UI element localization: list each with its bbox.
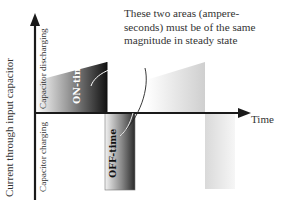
on-time-area-next-cycle: [146, 62, 205, 113]
y-negative-label: Capacitor charging: [38, 122, 48, 192]
on-time-label: ON-time: [71, 59, 82, 104]
annotation-line-1: These two areas (ampere-: [124, 7, 284, 21]
x-axis-label: Time: [251, 113, 274, 125]
y-axis-arrow-icon: [30, 13, 40, 26]
off-time-area-next-cycle: [205, 113, 235, 189]
off-time-label: OFF-time: [107, 129, 118, 178]
annotation-text: These two areas (ampere- seconds) must b…: [124, 7, 284, 48]
annotation-line-2: seconds) must be of the same: [124, 21, 284, 35]
annotation-line-3: magnitude in steady state: [124, 34, 284, 48]
y-positive-label: Capacitor discharging: [38, 28, 48, 109]
y-axis-label: Current through input capacitor: [3, 58, 15, 197]
x-axis-arrow-icon: [238, 108, 251, 118]
